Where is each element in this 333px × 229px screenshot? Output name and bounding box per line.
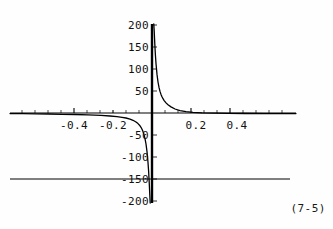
y-tick-label-200: 200	[128, 19, 149, 32]
y-tick-label-neg100: -100	[121, 151, 149, 164]
y-tick-label-100: 100	[128, 63, 149, 76]
y-tick-label-neg200: -200	[121, 195, 149, 208]
plot-canvas: 200 150 100 50 -50 -100 -150 -200 -0.4 -…	[0, 0, 333, 229]
figure-caption: (7-5)	[290, 202, 326, 215]
x-tick-labels: -0.4 -0.2 0.2 0.4	[60, 119, 248, 132]
y-tick-label-neg150: -150	[121, 173, 149, 186]
x-tick-label-0.4: 0.4	[226, 119, 247, 132]
x-tick-label-neg0.2: -0.2	[99, 119, 127, 132]
y-tick-label-150: 150	[128, 41, 149, 54]
x-tick-label-0.2: 0.2	[185, 119, 206, 132]
x-tick-label-neg0.4: -0.4	[60, 119, 88, 132]
figure-container: 200 150 100 50 -50 -100 -150 -200 -0.4 -…	[0, 0, 333, 229]
curve-right-branch	[154, 24, 296, 114]
y-tick-label-50: 50	[135, 85, 149, 98]
y-tick-label-neg50: -50	[128, 129, 149, 142]
